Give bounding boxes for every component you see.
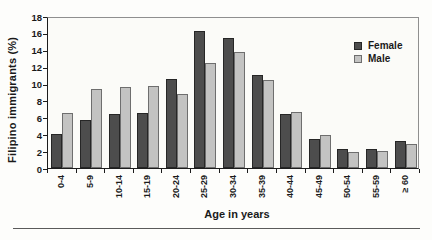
bar-male-0-4 bbox=[62, 113, 73, 168]
y-tick-mark bbox=[43, 85, 47, 86]
legend: Female Male bbox=[354, 39, 402, 65]
bar-female-0-4 bbox=[51, 134, 62, 168]
x-category-label-55-59: 55-59 bbox=[371, 175, 381, 198]
bar-male-20-24 bbox=[177, 94, 188, 168]
bar-female-35-39 bbox=[252, 75, 263, 168]
bar-male-15-19 bbox=[148, 86, 159, 168]
y-tick-label-14: 14 bbox=[16, 45, 42, 56]
bar-female-25-29 bbox=[194, 31, 205, 168]
x-category-label-30-34: 30-34 bbox=[228, 175, 238, 198]
legend-label-female: Female bbox=[368, 39, 402, 52]
bar-female-20-24 bbox=[166, 79, 177, 169]
x-category-label-35-39: 35-39 bbox=[257, 175, 267, 198]
bar-male-30-34 bbox=[234, 52, 245, 168]
y-tick-mark bbox=[43, 51, 47, 52]
x-category-label-0-4: 0-4 bbox=[56, 175, 66, 188]
x-category-label-40-44: 40-44 bbox=[285, 175, 295, 198]
bar-male-35-39 bbox=[263, 80, 274, 168]
y-tick-mark bbox=[43, 152, 47, 153]
x-tick-mark bbox=[419, 169, 420, 173]
bar-male-5-9 bbox=[91, 89, 102, 168]
bar-female-≥ 60 bbox=[395, 141, 406, 168]
bar-female-5-9 bbox=[80, 120, 91, 168]
x-tick-mark bbox=[190, 169, 191, 173]
y-tick-label-0: 0 bbox=[16, 164, 42, 175]
x-category-label-5-9: 5-9 bbox=[85, 175, 95, 188]
x-tick-mark bbox=[276, 169, 277, 173]
x-category-label-≥ 60: ≥ 60 bbox=[400, 175, 410, 192]
male-swatch-icon bbox=[354, 55, 362, 63]
x-tick-mark bbox=[333, 169, 334, 173]
x-category-label-45-49: 45-49 bbox=[314, 175, 324, 198]
y-tick-mark bbox=[43, 101, 47, 102]
bar-female-30-34 bbox=[223, 38, 234, 168]
female-swatch-icon bbox=[354, 42, 362, 50]
x-tick-mark bbox=[104, 169, 105, 173]
legend-label-male: Male bbox=[368, 52, 390, 65]
x-tick-mark bbox=[161, 169, 162, 173]
x-category-label-10-14: 10-14 bbox=[114, 175, 124, 198]
bar-female-55-59 bbox=[366, 149, 377, 168]
x-tick-mark bbox=[47, 169, 48, 173]
x-category-label-15-19: 15-19 bbox=[142, 175, 152, 198]
y-tick-label-2: 2 bbox=[16, 147, 42, 158]
bar-female-50-54 bbox=[337, 149, 348, 168]
bar-male-50-54 bbox=[348, 152, 359, 168]
y-tick-label-18: 18 bbox=[16, 12, 42, 23]
y-tick-label-12: 12 bbox=[16, 62, 42, 73]
bar-male-40-44 bbox=[291, 112, 302, 168]
bar-female-45-49 bbox=[309, 139, 320, 168]
bar-male-45-49 bbox=[320, 135, 331, 168]
x-tick-mark bbox=[247, 169, 248, 173]
bar-male-≥ 60 bbox=[406, 144, 417, 168]
x-tick-mark bbox=[362, 169, 363, 173]
bar-female-15-19 bbox=[137, 113, 148, 168]
y-tick-mark bbox=[43, 17, 47, 18]
y-tick-label-8: 8 bbox=[16, 96, 42, 107]
x-tick-mark bbox=[390, 169, 391, 173]
bar-male-55-59 bbox=[377, 151, 388, 168]
y-tick-label-16: 16 bbox=[16, 28, 42, 39]
figure-container: Filipino immigrants (%) 024681012141618 … bbox=[0, 0, 432, 240]
y-tick-mark bbox=[43, 118, 47, 119]
x-tick-mark bbox=[219, 169, 220, 173]
bar-male-25-29 bbox=[205, 63, 216, 168]
bar-male-10-14 bbox=[120, 87, 131, 168]
bar-female-10-14 bbox=[109, 114, 120, 168]
x-tick-mark bbox=[76, 169, 77, 173]
bar-female-40-44 bbox=[280, 114, 291, 168]
y-tick-label-6: 6 bbox=[16, 113, 42, 124]
x-axis-title: Age in years bbox=[167, 208, 307, 220]
x-category-label-50-54: 50-54 bbox=[342, 175, 352, 198]
x-category-label-20-24: 20-24 bbox=[171, 175, 181, 198]
x-tick-mark bbox=[305, 169, 306, 173]
legend-item-female: Female bbox=[354, 39, 402, 52]
y-tick-mark bbox=[43, 68, 47, 69]
y-tick-mark bbox=[43, 135, 47, 136]
legend-item-male: Male bbox=[354, 52, 402, 65]
x-tick-mark bbox=[133, 169, 134, 173]
y-tick-label-4: 4 bbox=[16, 130, 42, 141]
x-category-label-25-29: 25-29 bbox=[199, 175, 209, 198]
y-tick-mark bbox=[43, 34, 47, 35]
bottom-rule bbox=[13, 228, 420, 229]
y-tick-label-10: 10 bbox=[16, 79, 42, 90]
